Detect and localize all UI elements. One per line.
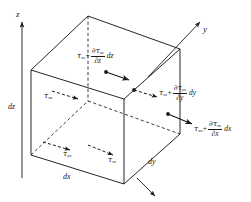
- axis-y: [148, 22, 200, 77]
- dimension-label-dx: dx: [63, 173, 71, 181]
- numerator-subscript: yx: [182, 87, 186, 92]
- partial-derivative-fraction: ∂τyx ∂y: [173, 84, 187, 102]
- fraction-denominator: ∂x: [208, 130, 222, 138]
- arrow-right-face: [134, 90, 157, 97]
- plus-operator: +: [167, 88, 172, 97]
- numerator-symbol: ∂τ: [92, 46, 100, 55]
- numerator-symbol: ∂τ: [174, 83, 182, 92]
- differential-dz: dz: [105, 51, 113, 60]
- numerator-symbol: ∂τ: [209, 119, 217, 128]
- arrow-origin-dot-top: [104, 70, 108, 74]
- dimension-label-dz: dz: [8, 103, 15, 111]
- dimension-label-dy: dy: [148, 158, 156, 166]
- stress-cube-drawing: [0, 0, 251, 202]
- stress-label-top-face: τzx+ ∂τzx ∂z dz: [77, 47, 113, 65]
- plus-operator: +: [202, 124, 207, 133]
- differential-dy: dy: [187, 88, 196, 97]
- differential-dx: dx: [223, 124, 232, 133]
- partial-derivative-fraction: ∂τzx ∂z: [91, 47, 105, 65]
- stress-label-back-face: τxx: [44, 92, 52, 101]
- axis-x: [137, 178, 155, 196]
- tau-subscript: zx: [112, 159, 116, 164]
- arrow-origin-dot-right: [132, 88, 136, 92]
- cube-hidden-edges: [31, 16, 180, 155]
- axis-label-y: y: [203, 25, 207, 34]
- tau-subscript: xx: [48, 95, 52, 100]
- cube-solid-edges: [31, 16, 180, 184]
- arrow-top-face: [106, 72, 129, 80]
- arrow-origin-dot-front: [166, 112, 170, 116]
- numerator-subscript: zx: [100, 50, 104, 55]
- plus-operator: +: [85, 51, 90, 60]
- stress-label-bottom-right: τzx: [108, 156, 116, 165]
- partial-derivative-fraction: ∂τxx ∂x: [208, 120, 222, 138]
- arrow-back-face: [52, 91, 78, 99]
- tau-subscript: yx: [67, 153, 71, 158]
- axis-label-z: z: [16, 10, 20, 19]
- numerator-subscript: xx: [217, 123, 221, 128]
- stress-label-bottom-left: τyx: [63, 150, 71, 159]
- figure-canvas: z y dz dx dy τzx+ ∂τzx ∂z dz τzx+ ∂τyx ∂…: [0, 0, 251, 202]
- fraction-denominator: ∂y: [173, 94, 187, 102]
- fraction-denominator: ∂z: [91, 57, 105, 65]
- stress-label-front-face: τxx+ ∂τxx ∂x dx: [194, 120, 231, 138]
- arrow-bottom-right: [88, 145, 113, 155]
- stress-label-right-face: τzx+ ∂τyx ∂y dy: [159, 84, 196, 102]
